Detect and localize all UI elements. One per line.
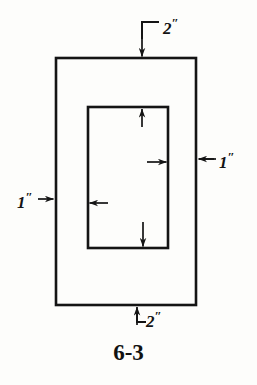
dimension-value-right: 1 xyxy=(219,153,228,172)
dimension-value-top: 2 xyxy=(163,19,172,38)
inch-mark-top: ″ xyxy=(172,15,179,30)
dimension-label-right: 1″ xyxy=(219,150,234,171)
inch-mark-left: ″ xyxy=(26,189,33,204)
annotation-bottom-leader xyxy=(137,307,146,325)
dimension-label-top: 2″ xyxy=(163,16,178,37)
inch-mark-bottom: ″ xyxy=(155,308,162,323)
inner-rectangle xyxy=(88,107,168,248)
dimension-label-bottom: 2″ xyxy=(146,309,161,330)
technical-drawing xyxy=(0,0,257,385)
dimension-value-bottom: 2 xyxy=(146,312,155,331)
figure-canvas: 2″ 2″ 1″ 1″ 6-3 xyxy=(0,0,257,385)
dimension-value-left: 1 xyxy=(17,193,26,212)
annotation-top-leader xyxy=(142,22,159,57)
figure-caption: 6-3 xyxy=(0,340,257,366)
outer-rectangle xyxy=(56,58,196,305)
inch-mark-right: ″ xyxy=(228,149,235,164)
dimension-label-left: 1″ xyxy=(17,190,32,211)
